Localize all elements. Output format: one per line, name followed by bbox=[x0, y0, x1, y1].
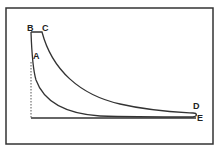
label-d: D bbox=[193, 102, 200, 111]
label-c: C bbox=[42, 24, 49, 33]
frame bbox=[6, 8, 213, 144]
expansion-curve bbox=[31, 32, 193, 113]
exhaust-curve bbox=[100, 113, 196, 117]
label-e: E bbox=[197, 114, 203, 123]
label-b: B bbox=[27, 24, 34, 33]
label-a: A bbox=[33, 52, 40, 61]
